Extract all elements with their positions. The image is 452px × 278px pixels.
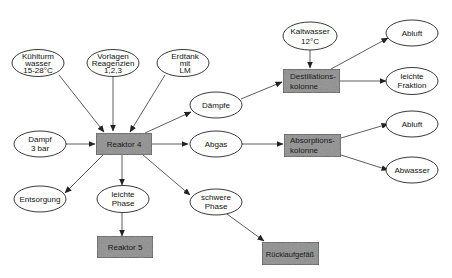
label-line: Rücklaufgefäß — [266, 250, 315, 259]
edge-reaktor4-daempfe — [145, 112, 191, 133]
process-flow-diagram: Kühlturm wasser 15-28°C Vorlagen Reagenz… — [0, 0, 452, 278]
label-line: Reaktor 5 — [108, 243, 143, 252]
svg-text:Abwasser: Abwasser — [394, 166, 429, 175]
node-abluft-1: Abluft — [386, 20, 438, 46]
svg-text:Abluft: Abluft — [402, 29, 423, 38]
svg-text:Rücklaufgefäß: Rücklaufgefäß — [266, 250, 315, 259]
node-leichte-phase: leichte Phase — [97, 186, 149, 213]
node-daempfe: Dämpfe — [190, 92, 242, 118]
label-line: kolonne — [290, 82, 319, 91]
edge-absorption-abwasser — [341, 155, 388, 170]
svg-text:Absorptions-: Absorptions- — [290, 136, 335, 145]
label-line: Kaltwasser — [290, 27, 329, 36]
node-abgas: Abgas — [190, 131, 242, 157]
svg-text:Dämpfe: Dämpfe — [202, 101, 231, 110]
node-absorptionskolonne: Absorptions- kolonne — [284, 134, 341, 157]
node-dampf: Dampf 3 bar — [14, 131, 66, 157]
svg-text:15-28°C: 15-28°C — [23, 66, 53, 75]
node-reaktor5: Reaktor 5 — [97, 236, 153, 258]
svg-text:Phase: Phase — [112, 199, 135, 208]
label-line: Abluft — [402, 29, 423, 38]
label-line: Abgas — [205, 140, 228, 149]
svg-text:Reaktor 4: Reaktor 4 — [107, 140, 142, 149]
label-line: Reaktor 4 — [107, 140, 142, 149]
node-destillationskolonne: Destillations- kolonne — [283, 69, 340, 93]
svg-text:LM: LM — [179, 66, 190, 75]
label-line: Phase — [205, 202, 228, 211]
label-line: Dampf — [28, 135, 52, 144]
node-kuehlturm: Kühlturm wasser 15-28°C — [12, 50, 64, 77]
label-line: schwere — [201, 193, 231, 202]
label-line: 12°C — [301, 37, 319, 46]
edge-absorption-abluft2 — [341, 124, 388, 138]
edge-reaktor4-entsorgung — [65, 155, 103, 193]
svg-text:Phase: Phase — [205, 202, 228, 211]
label-line: 3 bar — [31, 144, 50, 153]
edge-erdtank-reaktor4 — [130, 75, 165, 132]
svg-text:Abgas: Abgas — [205, 140, 228, 149]
svg-text:12°C: 12°C — [301, 37, 319, 46]
label-line: Entsorgung — [20, 195, 61, 204]
label-line: 1,2,3 — [104, 66, 122, 75]
node-kaltwasser: Kaltwasser 12°C — [283, 22, 337, 50]
node-erdtank: Erdtank mit LM — [157, 50, 209, 77]
svg-text:Fraktion: Fraktion — [398, 81, 427, 90]
node-abwasser: Abwasser — [386, 157, 438, 183]
svg-text:Destillations-: Destillations- — [290, 72, 336, 81]
node-abluft-2: Abluft — [386, 111, 438, 137]
svg-text:schwere: schwere — [201, 193, 231, 202]
label-line: Absorptions- — [290, 136, 335, 145]
label-line: Dämpfe — [202, 101, 231, 110]
label-line: kolonne — [290, 146, 319, 155]
svg-text:leichte: leichte — [111, 190, 135, 199]
node-entsorgung: Entsorgung — [14, 186, 66, 212]
edge-reaktor4-schwere-phase — [143, 155, 190, 195]
svg-text:1,2,3: 1,2,3 — [104, 66, 122, 75]
node-reaktor4: Reaktor 4 — [96, 133, 152, 155]
edge-kuehlturm-reaktor4 — [59, 75, 104, 132]
edge-daempfe-destillation — [241, 82, 282, 99]
svg-text:Kaltwasser: Kaltwasser — [290, 27, 329, 36]
svg-text:Abluft: Abluft — [402, 120, 423, 129]
svg-text:Entsorgung: Entsorgung — [20, 195, 61, 204]
label-line: Abluft — [402, 120, 423, 129]
label-line: 15-28°C — [23, 66, 53, 75]
svg-text:kolonne: kolonne — [290, 146, 319, 155]
edge-destillation-abluft1 — [331, 38, 388, 69]
label-line: LM — [179, 66, 190, 75]
label-line: Phase — [112, 199, 135, 208]
node-schwere-phase: schwere Phase — [190, 189, 242, 215]
node-leichte-fraktion: leichte Fraktion — [386, 68, 438, 95]
svg-text:Reaktor 5: Reaktor 5 — [108, 243, 143, 252]
node-vorlagen: Vorlagen Reagenzien 1,2,3 — [87, 50, 139, 77]
edge-schwere-phase-ruecklauf — [227, 214, 264, 241]
label-line: Abwasser — [394, 166, 429, 175]
svg-text:3 bar: 3 bar — [31, 144, 50, 153]
label-line: Destillations- — [290, 72, 336, 81]
label-line: leichte — [400, 72, 424, 81]
svg-text:leichte: leichte — [400, 72, 424, 81]
label-line: leichte — [111, 190, 135, 199]
svg-text:Dampf: Dampf — [28, 135, 52, 144]
svg-text:kolonne: kolonne — [290, 82, 319, 91]
node-ruecklaufgefaess: Rücklaufgefäß — [262, 242, 319, 265]
label-line: Fraktion — [398, 81, 427, 90]
